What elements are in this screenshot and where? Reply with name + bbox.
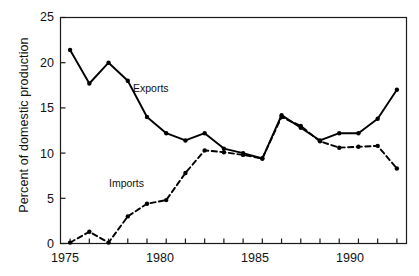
data-point-imports-1977 [106, 240, 110, 244]
data-series-group [68, 48, 399, 245]
data-point-exports-1991 [375, 117, 379, 121]
data-point-exports-1979 [145, 115, 149, 119]
data-point-exports-1982 [202, 131, 206, 135]
data-point-exports-1989 [337, 131, 341, 135]
data-point-imports-1975 [68, 240, 72, 244]
chart-figure: Percent of domestic production 0 5 10 15… [0, 0, 419, 276]
data-point-imports-1992 [395, 166, 399, 170]
data-point-imports-1982 [202, 148, 206, 152]
data-point-imports-1986 [279, 115, 283, 119]
data-point-exports-1981 [183, 138, 187, 142]
data-point-exports-1992 [395, 88, 399, 92]
data-point-exports-1976 [87, 81, 91, 85]
chart-plot-area [0, 0, 419, 276]
data-point-exports-1978 [126, 79, 130, 83]
series-line-exports [70, 50, 397, 158]
data-point-exports-1977 [106, 61, 110, 65]
axes-frame [61, 18, 407, 244]
data-point-imports-1988 [318, 139, 322, 143]
data-point-imports-1981 [183, 171, 187, 175]
axes-ticks [61, 18, 397, 244]
series-line-imports [70, 117, 397, 243]
data-point-exports-1975 [68, 48, 72, 52]
data-point-imports-1978 [126, 214, 130, 218]
data-point-imports-1991 [375, 144, 379, 148]
data-point-imports-1984 [241, 153, 245, 157]
data-point-imports-1980 [164, 198, 168, 202]
data-point-imports-1990 [356, 145, 360, 149]
data-point-imports-1983 [222, 150, 226, 154]
data-point-exports-1980 [164, 131, 168, 135]
data-point-imports-1976 [87, 230, 91, 234]
data-point-imports-1985 [260, 156, 264, 160]
data-point-imports-1979 [145, 202, 149, 206]
data-point-imports-1987 [299, 124, 303, 128]
data-point-imports-1989 [337, 145, 341, 149]
data-point-exports-1990 [356, 131, 360, 135]
